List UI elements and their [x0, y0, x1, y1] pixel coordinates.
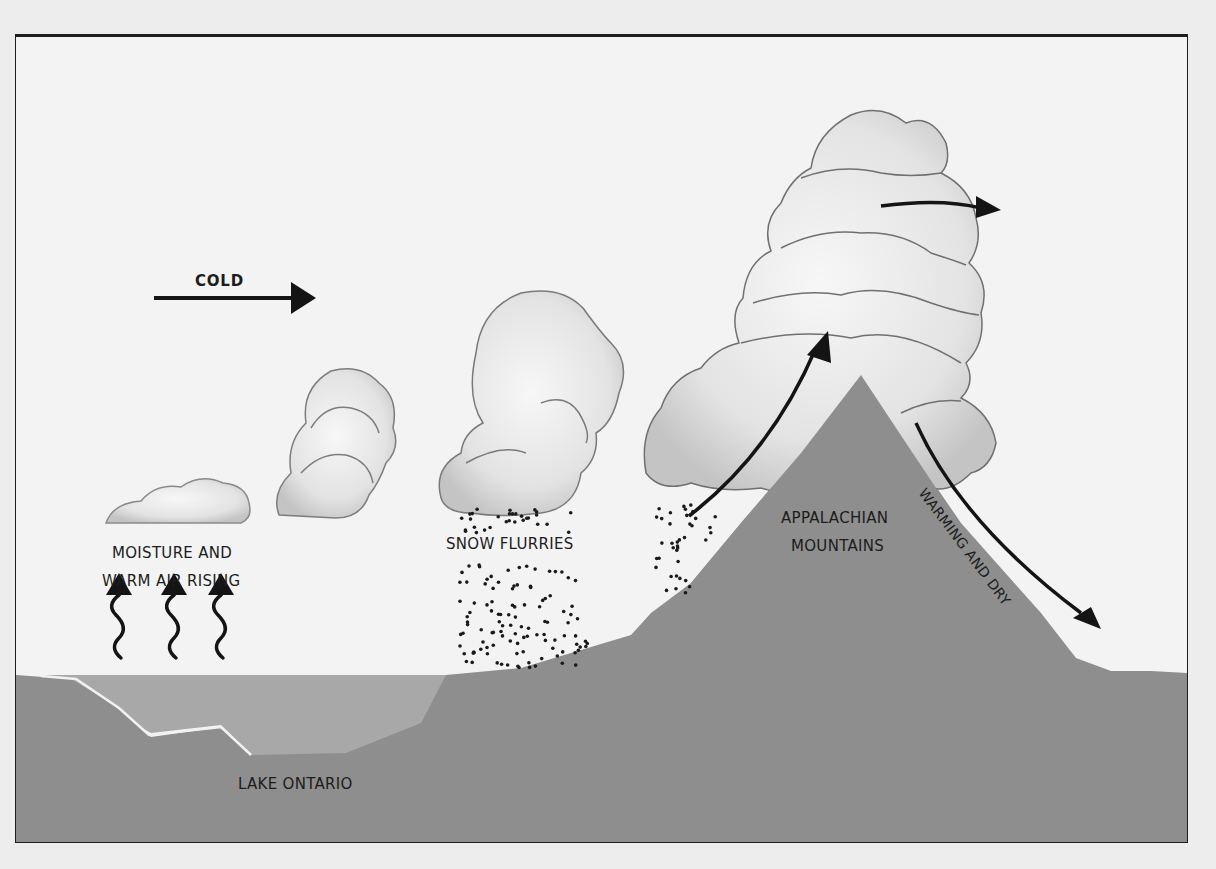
moisture-label-line2: WARM AIR RISING: [102, 568, 240, 594]
cold-label: COLD: [195, 268, 244, 294]
cloud-snow: [439, 291, 623, 516]
page: COLD MOISTURE AND WARM AIR RISING SNOW F…: [0, 0, 1216, 869]
scene-illustration: [16, 37, 1188, 843]
cloud-small: [106, 479, 250, 523]
diagram-frame: [15, 34, 1188, 843]
cloud-medium: [277, 369, 396, 518]
ground-terrain: [16, 375, 1188, 843]
snow-flurries-label: SNOW FLURRIES: [446, 531, 574, 557]
moisture-label-line1: MOISTURE AND: [112, 540, 232, 566]
lake-ontario-label: LAKE ONTARIO: [238, 771, 353, 797]
mountains-label-line2: MOUNTAINS: [791, 533, 884, 559]
mountains-label-line1: APPALACHIAN: [781, 505, 888, 531]
